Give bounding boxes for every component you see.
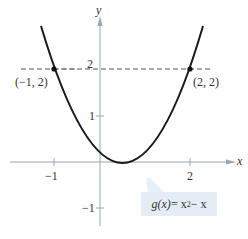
x-axis-arrow-icon bbox=[226, 160, 236, 165]
point-neg1-2 bbox=[51, 66, 56, 71]
x-axis-label: x bbox=[237, 155, 242, 167]
x-tick-label-neg1: −1 bbox=[45, 170, 58, 182]
y-tick-label-1: 1 bbox=[89, 110, 95, 122]
point-label-right: (2, 2) bbox=[193, 76, 219, 88]
x-tick-label-2: 2 bbox=[187, 170, 193, 182]
point-label-left: (−1, 2) bbox=[15, 76, 48, 88]
function-equals: = x bbox=[171, 197, 187, 212]
y-tick-label-2: 2 bbox=[87, 58, 93, 70]
function-callout: g(x) = x2 − x bbox=[141, 192, 217, 216]
y-axis-label: y bbox=[96, 4, 101, 16]
y-tick-label-neg1: −1 bbox=[82, 202, 95, 214]
parabola-curve bbox=[41, 26, 203, 163]
function-name: g(x) bbox=[152, 197, 171, 212]
y-axis-arrow-icon bbox=[98, 16, 103, 26]
function-rest: − x bbox=[191, 197, 207, 212]
point-2-2 bbox=[187, 66, 192, 71]
